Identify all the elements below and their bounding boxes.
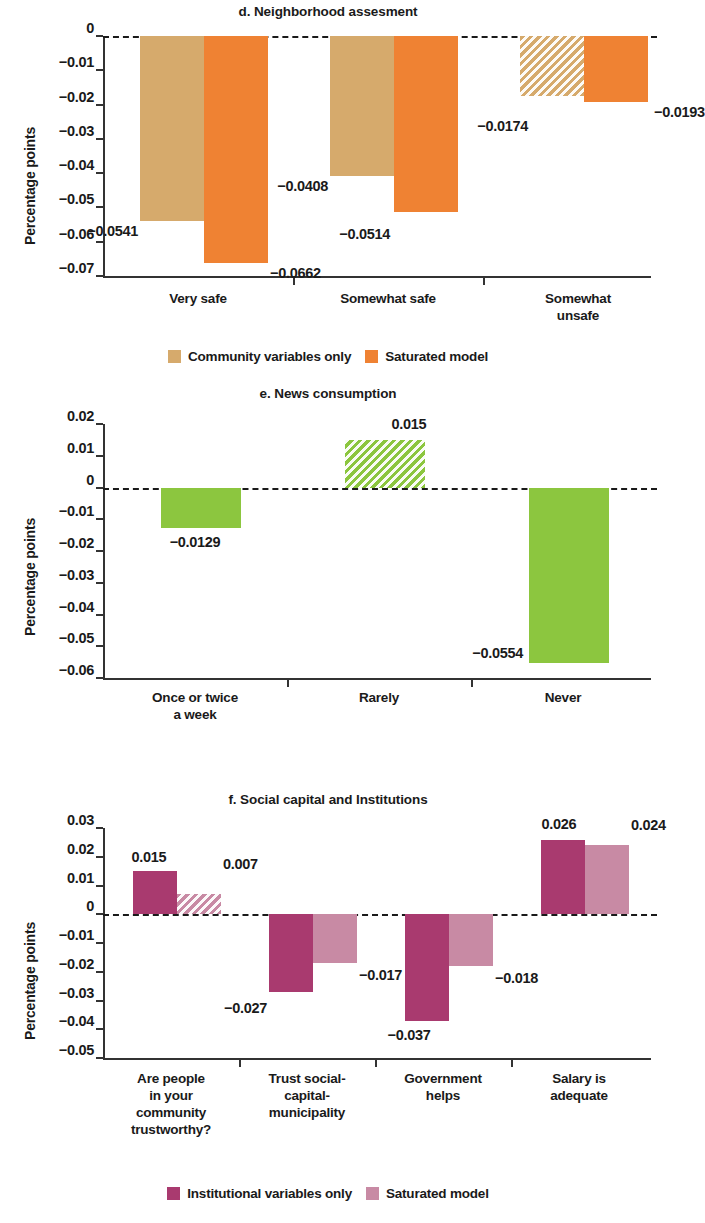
bar-hatch-pattern [345,440,425,488]
y-tick-label: −0.04 [59,157,103,173]
bar-value-label: 0.007 [223,856,258,872]
y-tick-label: −0.02 [59,956,103,972]
legend-f: Institutional variables onlySaturated mo… [0,1186,656,1201]
bar-value-label: 0.015 [392,416,427,432]
category-label-line: Very safe [103,290,293,307]
bar-fill [405,914,449,1020]
bar-value-label: −0.0541 [87,223,138,239]
x-axis-separator [471,678,473,687]
y-tick-mark [96,827,103,829]
bar-value-label: −0.017 [359,967,402,983]
bar-hatch-pattern [520,36,584,96]
category-label-line: Rarely [287,689,471,706]
bar [140,36,204,221]
category-label-line: Once or twice [103,689,287,706]
legend-label: Saturated model [386,1186,489,1201]
zero-reference-line-f [103,914,657,916]
y-tick-mark [96,69,103,71]
panel-f-x-axis [103,1058,651,1060]
legend-item: Community variables only [168,349,351,364]
bar [449,914,493,966]
bar-fill [269,914,313,992]
category-label-f-2: Governmenthelps [375,1070,511,1104]
y-tick-mark [96,1057,103,1059]
bar-fill [330,36,394,176]
category-label-line: municipality [239,1104,375,1121]
panel-d: d. Neighborhood assesment Percentage poi… [0,0,656,375]
category-label-d-1: Somewhat safe [293,290,483,307]
bar [529,488,609,664]
panel-d-y-axis-label: Percentage points [22,127,38,245]
bar-hatch-pattern [177,894,221,914]
panel-f: f. Social capital and Institutions Perce… [0,790,656,1223]
x-axis-separator [287,678,289,687]
y-tick-mark [96,172,103,174]
y-tick-label: −0.05 [59,1042,103,1058]
bar [405,914,449,1020]
bar [585,845,629,914]
category-label-line: Somewhat [483,290,673,307]
y-tick-label: −0.04 [59,599,103,615]
panel-e-y-axis [103,424,105,680]
bar-fill [204,36,268,263]
panel-d-y-axis [103,36,105,278]
y-tick-label: 0 [86,898,103,914]
y-tick-mark [96,550,103,552]
panel-d-axes: 0−0.01−0.02−0.03−0.04−0.05−0.06−0.07−0.0… [103,36,651,278]
bar-fill [541,840,585,915]
bar-value-label: −0.0554 [472,645,523,661]
bar [345,440,425,488]
y-tick-label: 0 [86,472,103,488]
y-tick-mark [96,942,103,944]
category-label-e-2: Never [471,689,655,706]
bar-value-label: 0.015 [132,849,167,865]
bar-fill [394,36,458,212]
category-label-line: Somewhat safe [293,290,483,307]
panel-f-y-axis [103,828,105,1060]
bar-fill [161,488,241,529]
y-tick-label: −0.01 [59,927,103,943]
y-tick-label: 0 [86,20,103,36]
bar [584,36,648,102]
bar-fill [584,36,648,102]
y-tick-label: −0.03 [59,985,103,1001]
y-tick-label: 0.02 [67,841,103,857]
category-label-f-3: Salary isadequate [511,1070,647,1104]
bar-value-label: −0.0193 [654,104,705,120]
panel-e-plot-area: Percentage points 0.020.010−0.01−0.02−0.… [0,384,656,784]
bar-value-label: 0.026 [542,816,577,832]
bar-value-label: 0.024 [631,817,666,833]
y-tick-mark [96,455,103,457]
y-tick-mark [96,645,103,647]
category-label-line: capital- [239,1087,375,1104]
bar [269,914,313,992]
y-tick-mark [96,138,103,140]
category-label-d-0: Very safe [103,290,293,307]
bar-fill [449,914,493,966]
bar-fill [140,36,204,221]
y-tick-label: −0.06 [59,662,103,678]
y-tick-mark [96,1028,103,1030]
bar [541,840,585,915]
panel-f-y-axis-label: Percentage points [22,922,38,1040]
y-tick-label: 0.01 [67,870,103,886]
legend-item: Saturated model [365,349,488,364]
bar [394,36,458,212]
bar [313,914,357,963]
category-label-line: Government [375,1070,511,1087]
y-tick-mark [96,885,103,887]
y-tick-mark [96,518,103,520]
bar-fill [585,845,629,914]
category-label-line: Never [471,689,655,706]
y-tick-mark [96,1000,103,1002]
y-tick-mark [96,241,103,243]
legend-d: Community variables onlySaturated model [0,349,656,364]
category-label-e-0: Once or twicea week [103,689,287,723]
panel-f-plot-area: Percentage points 0.030.020.010−0.01−0.0… [0,790,656,1223]
bar-value-label: −0.0408 [277,178,328,194]
legend-item: Saturated model [366,1186,489,1201]
bar-value-label: −0.0662 [270,265,321,281]
y-tick-label: −0.02 [59,535,103,551]
y-tick-label: −0.03 [59,123,103,139]
y-tick-label: −0.02 [59,89,103,105]
